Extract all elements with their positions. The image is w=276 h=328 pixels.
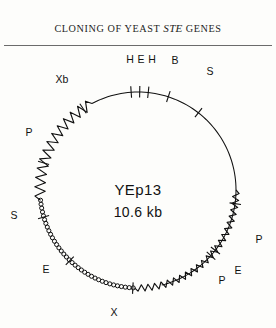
header-divider <box>4 45 272 46</box>
plasmid-name: YEp13 <box>114 181 161 198</box>
running-head-italic-gene: STE <box>163 22 182 34</box>
arc-zigzag-large <box>35 101 92 200</box>
tick-site-h-left <box>148 87 149 98</box>
site-s-left-label: S <box>10 209 17 221</box>
site-e-lower-right-label: E <box>234 264 241 276</box>
plasmid-size: 10.6 kb <box>114 204 163 220</box>
site-p-right-label: P <box>255 233 262 245</box>
site-h-left-label: H <box>126 53 134 65</box>
site-x-bottom-label: X <box>110 306 117 318</box>
tick-site-x-bottom <box>133 282 134 293</box>
running-head-suffix: GENES <box>183 23 222 34</box>
running-head: CLONING OF YEAST STE GENES <box>0 22 276 34</box>
tick-site-s-upper-right <box>195 108 202 117</box>
site-e-lower-left-label: E <box>42 263 49 275</box>
site-p-upper-left-label: P <box>25 126 32 138</box>
site-xb-label: Xb <box>56 73 69 85</box>
site-p-lower-right-label: P <box>218 274 225 286</box>
figure-page: CLONING OF YEAST STE GENES HEHBSPPEXESPX… <box>0 0 276 328</box>
plasmid-map-figure: HEHBSPPEXESPXb YEp13 10.6 kb <box>0 48 276 328</box>
page-header: CLONING OF YEAST STE GENES <box>0 0 276 48</box>
site-s-upper-right-label: S <box>206 65 213 77</box>
site-h-right-label: H <box>148 53 156 65</box>
running-head-prefix: CLONING OF YEAST <box>54 23 163 34</box>
tick-site-h-right <box>131 86 132 97</box>
site-b-label: B <box>171 54 178 66</box>
site-e-top-label: E <box>137 53 144 65</box>
plasmid-map-svg: HEHBSPPEXESPXb YEp13 10.6 kb <box>0 48 276 328</box>
